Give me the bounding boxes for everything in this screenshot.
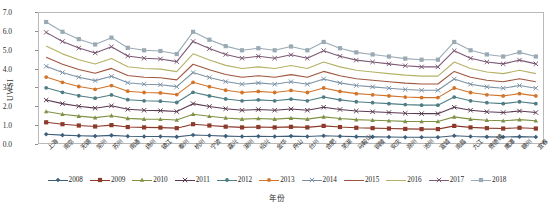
legend-marker-icon [471, 176, 491, 184]
legend-item-2014[interactable]: 2014 [302, 176, 337, 184]
legend-item-2008[interactable]: 2008 [48, 176, 83, 184]
data-point-marker [420, 103, 424, 107]
legend-item-2011[interactable]: 2011 [175, 176, 210, 184]
data-point-marker [468, 125, 472, 129]
data-point-marker [403, 103, 407, 107]
legend-item-2013[interactable]: 2013 [259, 176, 294, 184]
legend-symbol-icon [309, 177, 315, 183]
data-point-marker [436, 135, 441, 140]
data-point-marker [403, 135, 408, 140]
data-point-marker [207, 133, 212, 138]
data-point-marker [354, 134, 359, 139]
data-point-marker [240, 134, 245, 139]
data-point-marker [44, 132, 49, 137]
data-point-marker [501, 102, 505, 106]
data-point-marker [419, 135, 424, 140]
data-point-marker [452, 95, 456, 99]
data-point-marker [387, 135, 392, 140]
data-point-marker [44, 30, 48, 34]
data-point-marker [159, 99, 163, 103]
legend-label: 2011 [196, 176, 210, 184]
data-point-marker [436, 58, 440, 62]
data-point-marker [534, 94, 538, 98]
data-point-marker [321, 133, 326, 138]
data-point-marker [387, 126, 391, 130]
data-point-marker [126, 98, 130, 102]
legend-item-2016[interactable]: 2016 [386, 176, 421, 184]
data-point-marker [175, 52, 179, 56]
legend-symbol-icon [182, 177, 188, 183]
data-point-marker [93, 87, 97, 91]
legend-symbol-icon [139, 177, 145, 183]
data-point-marker [256, 46, 260, 50]
data-point-marker [225, 178, 229, 182]
data-point-marker [60, 39, 64, 43]
data-point-marker [77, 133, 82, 138]
data-point-marker [305, 125, 309, 129]
data-point-marker [60, 133, 65, 138]
data-point-marker [485, 52, 489, 56]
x-axis-tick-labels: 上海南京无锡常州苏州南通扬州镇江泰州杭州宁波嘉兴湖州绍兴金华舟山台州合肥芜湖马鞍… [38, 145, 544, 175]
legend-label: 2010 [153, 176, 167, 184]
legend-marker-icon [302, 176, 322, 184]
data-point-marker [110, 93, 114, 97]
data-point-marker [125, 134, 130, 139]
data-point-marker [126, 125, 130, 129]
legend-marker-icon [90, 176, 110, 184]
legend-item-2012[interactable]: 2012 [217, 176, 252, 184]
y-axis-tick-label: 2.0 [0, 102, 12, 111]
data-point-marker [354, 92, 358, 96]
data-point-marker [403, 56, 407, 60]
data-point-marker [191, 133, 196, 138]
data-point-marker [93, 42, 97, 46]
legend-item-2017[interactable]: 2017 [429, 176, 464, 184]
data-point-marker [468, 48, 472, 52]
data-point-marker [469, 99, 473, 103]
legend-symbol-icon [478, 177, 484, 183]
legend-item-2018[interactable]: 2018 [471, 176, 506, 184]
data-point-marker [534, 126, 538, 130]
data-point-marker [534, 102, 538, 106]
legend-marker-icon [429, 176, 449, 184]
data-point-marker [61, 90, 65, 94]
data-point-marker [469, 91, 473, 95]
data-point-marker [479, 178, 483, 182]
data-point-marker [289, 89, 293, 93]
legend-item-2015[interactable]: 2015 [344, 176, 379, 184]
data-point-marker [371, 101, 375, 105]
data-point-marker [240, 91, 244, 95]
data-point-marker [322, 95, 326, 99]
legend-item-2009[interactable]: 2009 [90, 176, 125, 184]
data-point-marker [485, 93, 489, 97]
data-point-marker [485, 126, 489, 130]
data-point-marker [518, 100, 522, 104]
legend-symbol-icon [55, 177, 61, 183]
data-point-marker [338, 125, 342, 129]
data-point-marker [44, 20, 48, 24]
data-point-marker [240, 99, 244, 103]
series-2010 [44, 109, 538, 123]
data-point-marker [175, 126, 179, 130]
data-point-marker [273, 99, 277, 103]
data-point-marker [354, 50, 358, 54]
data-point-marker [207, 123, 211, 127]
data-point-marker [289, 97, 293, 101]
data-point-marker [256, 98, 260, 102]
data-point-marker [436, 96, 440, 100]
y-axis-tick-label: 3.0 [0, 83, 12, 92]
data-point-marker [207, 38, 211, 42]
data-point-marker [371, 52, 375, 56]
legend-label: 2013 [280, 176, 294, 184]
legend-label: 2014 [323, 176, 337, 184]
data-point-marker [273, 125, 277, 129]
data-point-marker [224, 125, 228, 129]
legend-marker-icon [217, 176, 237, 184]
data-point-marker [322, 40, 326, 44]
data-point-marker [256, 125, 260, 129]
data-point-marker [338, 98, 342, 102]
legend-item-2010[interactable]: 2010 [132, 176, 167, 184]
series-line [46, 100, 536, 114]
data-point-marker [403, 95, 407, 99]
data-point-marker [354, 100, 358, 104]
data-point-marker [109, 36, 113, 40]
